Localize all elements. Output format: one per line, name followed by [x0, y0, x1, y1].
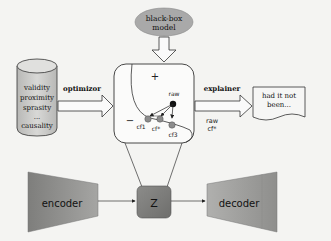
- document-line-1: had it not: [262, 92, 296, 100]
- decision-space: + − raw cf1 cf* cf3: [114, 64, 194, 143]
- black-box-label-1: black-box: [146, 14, 183, 23]
- cf1-point: [145, 116, 151, 122]
- down-hollow-arrow-icon: [152, 37, 176, 62]
- encoder-block: encoder: [28, 172, 98, 232]
- black-box-model: black-box model: [135, 8, 193, 36]
- positive-class-sign: +: [151, 71, 159, 82]
- cfstar-point: [157, 116, 163, 122]
- counterfactual-framework-diagram: black-box model validity proximity spras…: [0, 0, 331, 241]
- black-box-label-2: model: [152, 23, 176, 32]
- explainer-label: explainer: [204, 84, 241, 93]
- cf3-label: cf3: [168, 131, 177, 138]
- explanation-document: had it not been...: [253, 87, 305, 120]
- objective-causality: causality: [21, 122, 53, 130]
- cf1-label: cf1: [136, 123, 145, 130]
- decoder-label: decoder: [219, 198, 261, 209]
- projection-line-left: [125, 143, 142, 187]
- objective-sparsity: sprasity: [23, 104, 51, 112]
- latent-space-z: Z: [137, 186, 171, 218]
- encoder-label: encoder: [42, 198, 84, 209]
- objectives-database: validity proximity sprasity ... causalit…: [17, 59, 57, 136]
- raw-label: raw: [168, 90, 179, 97]
- explainer-arrow: explainer raw cf*: [195, 84, 252, 133]
- negative-class-sign: −: [126, 115, 134, 126]
- explainer-cfstar-label: cf*: [207, 125, 217, 133]
- projection-line-right: [167, 143, 182, 187]
- explainer-raw-label: raw: [206, 117, 219, 125]
- document-line-2: been...: [267, 101, 291, 109]
- optimizer-arrow: optimizor: [58, 84, 113, 117]
- latent-label: Z: [150, 197, 158, 210]
- objective-ellipsis: ...: [34, 113, 41, 121]
- objective-proximity: proximity: [20, 94, 54, 102]
- decoder-block: decoder: [207, 172, 277, 232]
- cf3-point: [169, 122, 175, 128]
- optimizer-label: optimizor: [63, 84, 101, 93]
- objective-validity: validity: [23, 84, 50, 92]
- cfstar-label: cf*: [152, 125, 160, 132]
